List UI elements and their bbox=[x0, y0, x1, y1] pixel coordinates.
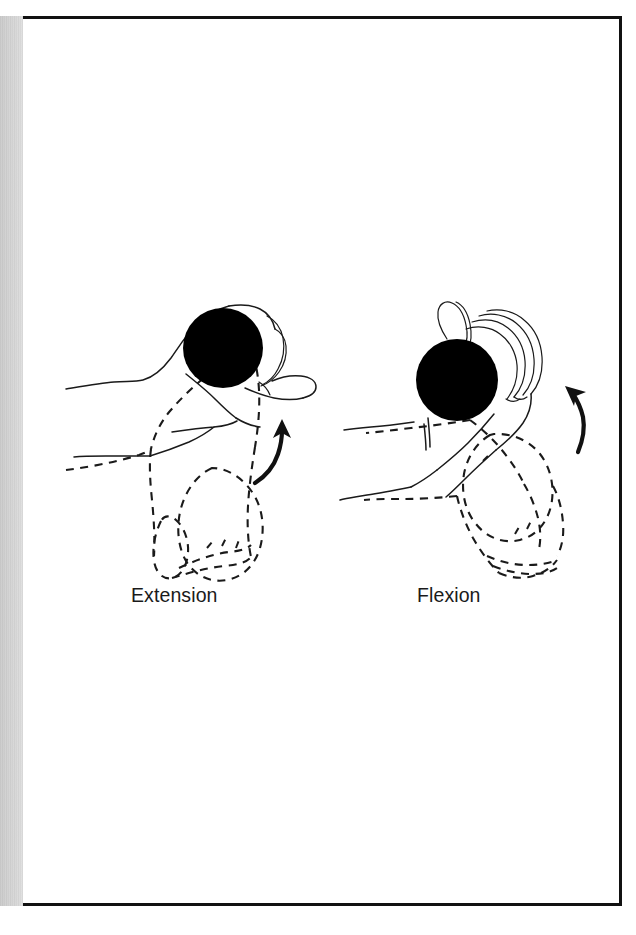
scanned-page: .sk { fill:none; stroke:#1a1a1a; stroke-… bbox=[0, 0, 636, 935]
caption-extension: Extension bbox=[131, 584, 218, 607]
motion-arrow-up-left bbox=[565, 386, 586, 452]
extension-ball bbox=[183, 308, 263, 388]
motion-arrow-up-right bbox=[255, 419, 291, 483]
flexion-ball bbox=[416, 339, 498, 421]
caption-flexion: Flexion bbox=[417, 584, 481, 607]
figure-artwork: .sk { fill:none; stroke:#1a1a1a; stroke-… bbox=[0, 0, 636, 935]
flexion-ghost-outline bbox=[364, 420, 563, 578]
